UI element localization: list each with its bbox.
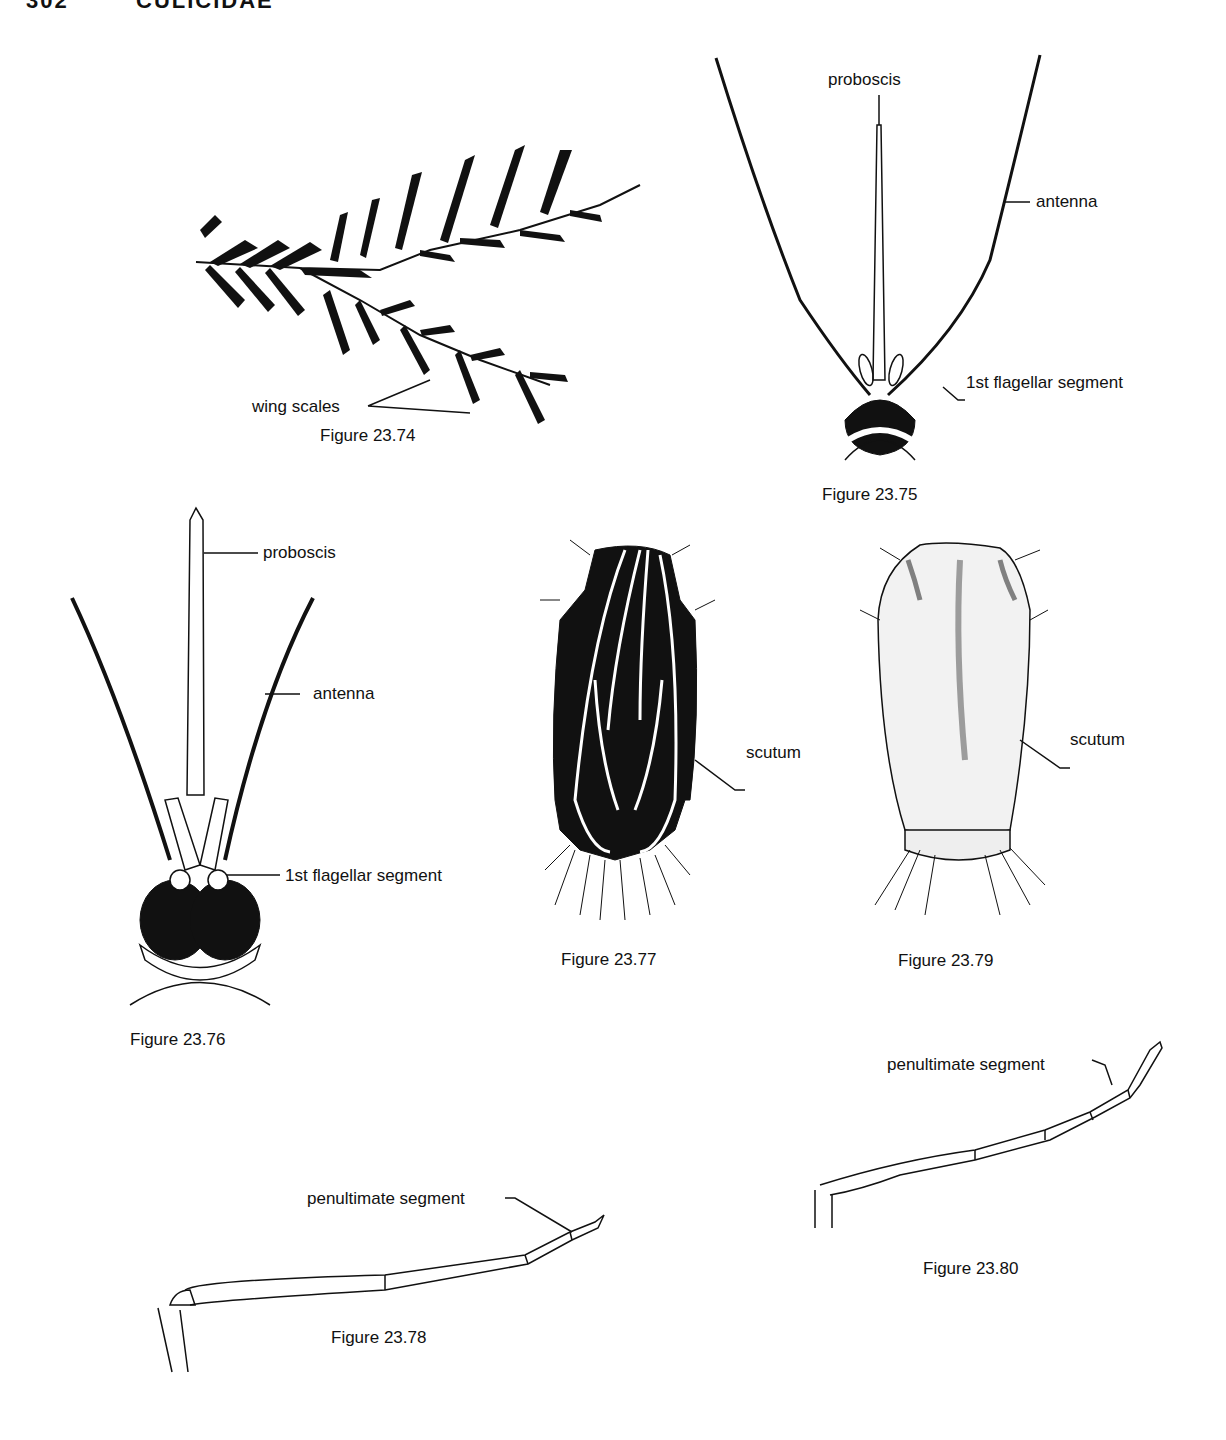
label-penultimate-23-80: penultimate segment <box>887 1055 1045 1075</box>
label-scutum-23-79: scutum <box>1070 730 1125 750</box>
caption-fig-23-78: Figure 23.78 <box>331 1328 426 1348</box>
caption-fig-23-80: Figure 23.80 <box>923 1259 1018 1279</box>
label-antenna-23-76: antenna <box>313 684 374 704</box>
caption-fig-23-74: Figure 23.74 <box>320 426 415 446</box>
head-drawing-23-76 <box>72 508 313 1005</box>
wing-scales-drawing <box>196 145 640 424</box>
head-drawing-23-75 <box>716 55 1040 460</box>
caption-fig-23-77: Figure 23.77 <box>561 950 656 970</box>
label-scutum-23-77: scutum <box>746 743 801 763</box>
caption-fig-23-76: Figure 23.76 <box>130 1030 225 1050</box>
scutum-drawing-23-77 <box>540 540 745 920</box>
label-flagellar-23-75: 1st flagellar segment <box>966 373 1123 393</box>
label-antenna-23-75: antenna <box>1036 192 1097 212</box>
label-penultimate-23-78: penultimate segment <box>307 1189 465 1209</box>
caption-fig-23-75: Figure 23.75 <box>822 485 917 505</box>
illustrations <box>0 0 1226 1440</box>
label-proboscis-23-76: proboscis <box>263 543 336 563</box>
label-wing-scales: wing scales <box>252 397 340 417</box>
label-proboscis-23-75: proboscis <box>828 70 901 90</box>
label-flagellar-23-76: 1st flagellar segment <box>285 866 442 886</box>
caption-fig-23-79: Figure 23.79 <box>898 951 993 971</box>
scutum-drawing-23-79 <box>860 543 1070 915</box>
